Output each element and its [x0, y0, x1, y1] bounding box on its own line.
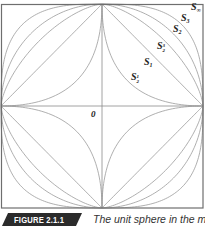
fraction-den: 2 — [163, 48, 166, 53]
figure-caption: The unit sphere in the metric — [93, 212, 205, 226]
label-fraction: 32 — [163, 43, 166, 53]
figure-number: FIGURE 2.1.1 — [14, 214, 64, 226]
label-s-1-2: S12 — [131, 72, 139, 84]
fraction-den: 2 — [137, 79, 140, 84]
origin-label: 0 — [91, 110, 96, 119]
label-s-3: S3 — [181, 13, 190, 24]
label-s-infinity: S∞ — [191, 2, 201, 13]
label-s-2: S2 — [173, 24, 182, 35]
label-fraction: 12 — [137, 74, 140, 84]
label-s-1: S1 — [144, 57, 153, 68]
label-s-3-2: S32 — [157, 41, 165, 53]
label-sub: 1 — [150, 62, 153, 68]
label-sub: 2 — [179, 29, 182, 35]
label-sub: ∞ — [197, 7, 201, 13]
label-sub: 3 — [187, 18, 190, 24]
